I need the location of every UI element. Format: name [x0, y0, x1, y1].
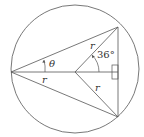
angle-36-label: 36°: [97, 49, 115, 60]
circle: [11, 5, 139, 133]
radius-bottom: [75, 72, 118, 117]
left-to-bottom-line: [11, 72, 118, 117]
geometry-diagram: θ 36° r r r: [0, 0, 144, 137]
r-bottom-label: r: [95, 82, 101, 93]
theta-label: θ: [49, 58, 55, 69]
r-mid-label: r: [42, 74, 48, 85]
r-top-label: r: [90, 40, 96, 51]
theta-arrow-icon: [42, 60, 45, 63]
